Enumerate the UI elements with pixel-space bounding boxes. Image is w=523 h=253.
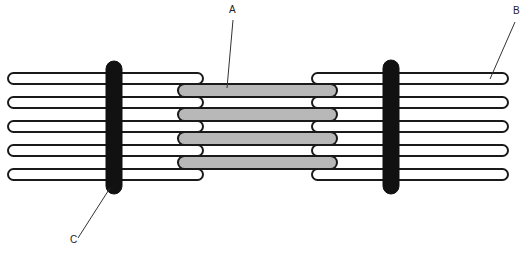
thick-filament (178, 108, 337, 121)
z-line (106, 61, 122, 194)
leader-line-a (227, 20, 233, 88)
leader-line-c (78, 188, 110, 238)
thin-filament (312, 121, 508, 132)
thick-filament (178, 132, 337, 145)
thin-filaments-right (312, 73, 508, 180)
thin-filament (312, 97, 508, 108)
leader-line-b (490, 22, 515, 79)
label-c: C (70, 234, 77, 245)
label-b: B (513, 5, 520, 16)
label-a: A (229, 4, 236, 15)
thick-filament (178, 84, 337, 97)
thick-filament (178, 156, 337, 169)
z-line (383, 60, 399, 194)
thin-filament (312, 145, 508, 156)
thin-filament (312, 73, 508, 84)
thin-filament (312, 169, 508, 180)
sarcomere-diagram (0, 0, 523, 253)
